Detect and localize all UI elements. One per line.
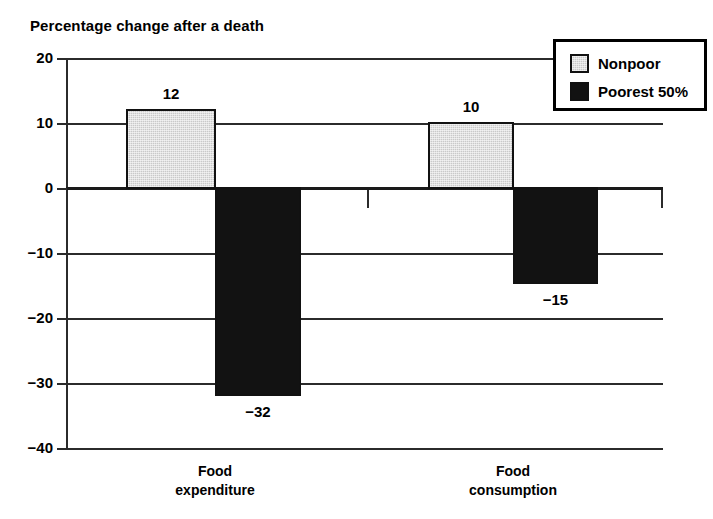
tick-neg30 <box>57 383 67 385</box>
tick-10 <box>57 123 67 125</box>
bar-food-expenditure-nonpoor[interactable] <box>126 109 216 189</box>
bar-value-food-consumption-poorest: −15 <box>513 292 598 307</box>
ytick-label-neg40: −40 <box>7 440 53 455</box>
group-separator-tick <box>367 190 369 208</box>
legend-label-nonpoor: Nonpoor <box>598 55 660 72</box>
ytick-label-0: 0 <box>7 180 53 195</box>
bar-food-consumption-poorest[interactable] <box>513 187 598 284</box>
gray-swatch-icon <box>570 54 589 73</box>
ytick-label-20: 20 <box>7 50 53 65</box>
tick-20 <box>57 58 67 60</box>
ytick-label-neg10: −10 <box>7 245 53 260</box>
tick-0 <box>57 188 67 190</box>
bar-food-consumption-nonpoor[interactable] <box>428 122 514 189</box>
black-swatch-icon <box>570 82 589 101</box>
category-label-line-2: consumption <box>433 481 593 500</box>
category-label-food-consumption: Food consumption <box>433 462 593 500</box>
chart-legend: Nonpoor Poorest 50% <box>553 39 707 111</box>
bar-value-food-expenditure-poorest: −32 <box>215 404 301 419</box>
bar-chart: Percentage change after a death 20 10 0 … <box>0 0 713 519</box>
tick-neg20 <box>57 318 67 320</box>
ytick-label-10: 10 <box>7 115 53 130</box>
category-label-line-1: Food <box>433 462 593 481</box>
gridline-neg20 <box>66 318 663 320</box>
category-label-food-expenditure: Food expenditure <box>135 462 295 500</box>
bar-food-expenditure-poorest[interactable] <box>215 187 301 396</box>
bar-value-food-consumption-nonpoor: 10 <box>428 99 514 114</box>
gridline-neg40 <box>66 448 663 450</box>
tick-neg10 <box>57 253 67 255</box>
gridline-neg30 <box>66 383 663 385</box>
ytick-label-neg30: −30 <box>7 375 53 390</box>
legend-label-poorest: Poorest 50% <box>598 83 688 100</box>
chart-title: Percentage change after a death <box>30 17 264 34</box>
plot-right-edge-tick <box>661 190 663 208</box>
legend-item-poorest[interactable]: Poorest 50% <box>570 77 704 105</box>
tick-neg40 <box>57 448 67 450</box>
ytick-label-neg20: −20 <box>7 310 53 325</box>
category-label-line-2: expenditure <box>135 481 295 500</box>
legend-item-nonpoor[interactable]: Nonpoor <box>570 49 704 77</box>
bar-value-food-expenditure-nonpoor: 12 <box>126 86 216 101</box>
category-label-line-1: Food <box>135 462 295 481</box>
